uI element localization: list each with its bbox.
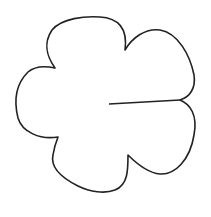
center-line: [109, 100, 180, 104]
flower-outline: [16, 17, 195, 192]
flower-diagram: [0, 0, 211, 217]
